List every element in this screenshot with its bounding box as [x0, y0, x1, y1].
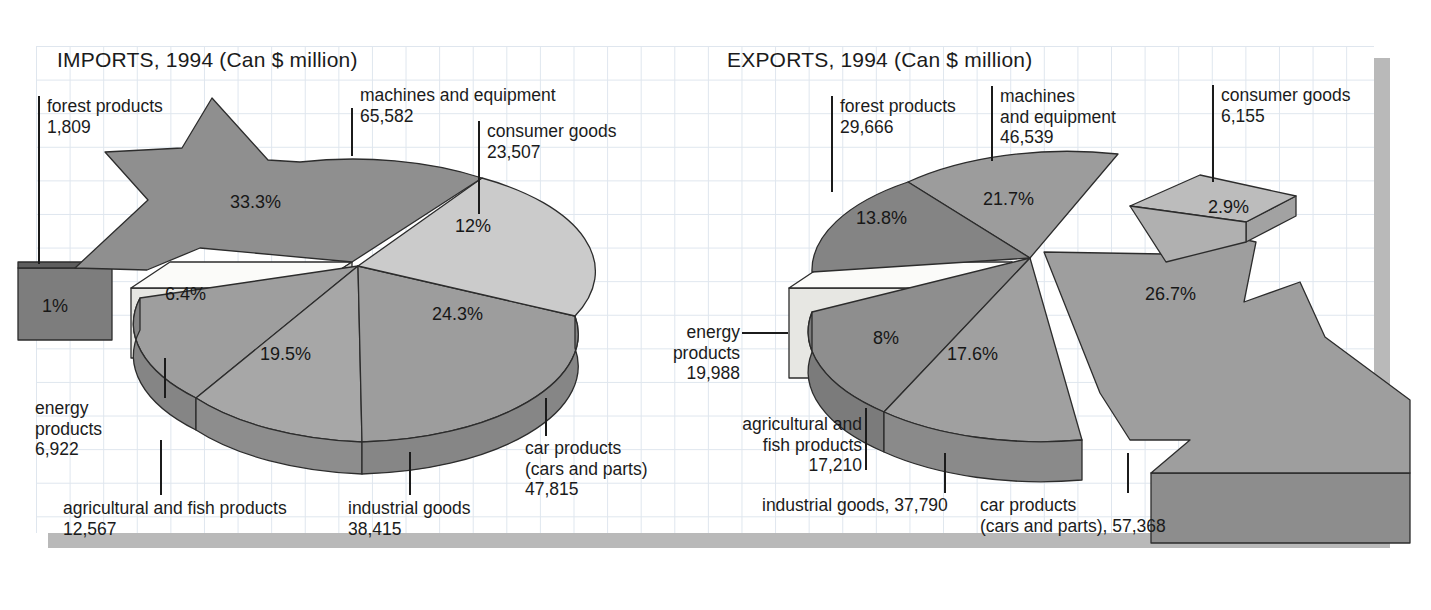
exports-title: EXPORTS, 1994 (Can $ million): [727, 48, 1032, 72]
exports-label-forest: forest products 29,666: [840, 96, 956, 137]
exports-leader-energy: [742, 332, 788, 334]
exports-slice-consumer[interactable]: 2.9%: [1130, 175, 1296, 262]
exports-label-consumer: consumer goods 6,155: [1221, 85, 1350, 126]
exports-leader-machines: [991, 86, 993, 161]
exports-label-industrial: industrial goods, 37,790: [762, 495, 948, 516]
exports-pct-consumer: 2.9%: [1208, 197, 1249, 217]
figure-root: 1% 3.5% 6.4% 19.5% 24.3%: [0, 0, 1431, 610]
exports-leader-forest: [831, 96, 833, 192]
exports-label-machines: machines and equipment 46,539: [1000, 86, 1116, 148]
exports-leader-industrial: [944, 453, 946, 493]
exports-label-car: car products (cars and parts), 57,368: [980, 495, 1166, 536]
exports-label-energy: energy products 19,988: [645, 322, 740, 384]
exports-leader-agricultural: [865, 408, 867, 470]
exports-pct-industrial: 17.6%: [947, 344, 998, 364]
exports-pct-agricultural: 8%: [873, 328, 899, 348]
exports-pct-car: 26.7%: [1145, 284, 1196, 304]
exports-leader-consumer: [1212, 85, 1214, 182]
exports-pct-forest: 13.8%: [856, 208, 907, 228]
exports-pie-svg: 9.3% 8% 17.6% 26.7% 2.9%: [0, 0, 1431, 610]
exports-leader-car: [1127, 453, 1129, 493]
exports-pct-machines: 21.7%: [983, 189, 1034, 209]
exports-label-agricultural: agricultural and fish products 17,210: [700, 414, 862, 476]
